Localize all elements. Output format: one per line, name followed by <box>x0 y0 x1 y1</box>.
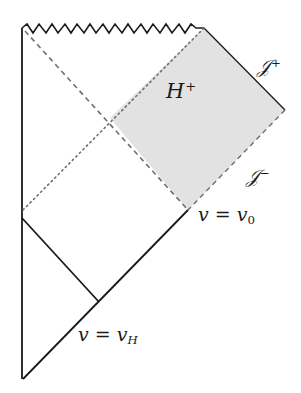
v0-equals: = <box>209 203 237 225</box>
vH-lhs: v <box>78 323 89 345</box>
vH-subscript: H <box>127 333 137 347</box>
v-equals-vH-label: v = vH <box>78 325 138 347</box>
scri-minus-label-sup: − <box>260 166 270 180</box>
v0-subscript: 0 <box>247 213 255 227</box>
horizon-label-sup: + <box>185 79 196 94</box>
scri-plus-label-sup: + <box>271 56 281 70</box>
scri-plus-label: 𝒥+ <box>257 57 281 76</box>
v0-null-line <box>23 210 188 379</box>
penrose-diagram <box>0 0 301 393</box>
scri-minus-label-base: 𝒥 <box>246 165 259 187</box>
vH-rhs: v <box>117 323 128 345</box>
scri-minus-label: 𝒥− <box>246 167 270 186</box>
v0-rhs: v <box>237 203 248 225</box>
v-equals-v0-label: v = v0 <box>198 205 255 227</box>
horizon-label: H+ <box>166 80 196 102</box>
singularity-zigzag <box>22 24 204 33</box>
scri-plus-label-base: 𝒥 <box>257 55 270 77</box>
v0-lhs: v <box>198 203 209 225</box>
vH-null-line <box>22 218 99 302</box>
vH-equals: = <box>89 323 117 345</box>
horizon-label-base: H <box>166 79 184 103</box>
